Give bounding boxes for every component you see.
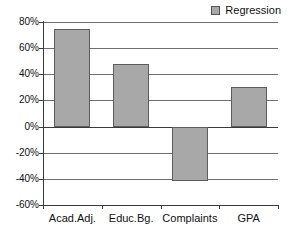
y-axis-tick-label: 60% xyxy=(0,43,39,53)
y-axis-tick-mark xyxy=(39,127,43,128)
y-axis-tick-label: 80% xyxy=(0,17,39,27)
y-axis-tick-label: -20% xyxy=(0,148,39,158)
plot-area xyxy=(43,22,278,205)
legend-entry-regression: Regression xyxy=(211,2,281,18)
y-axis-tick-label: -60% xyxy=(0,200,39,210)
legend-label: Regression xyxy=(225,4,281,16)
gridline xyxy=(43,22,278,23)
y-axis-tick-mark xyxy=(39,22,43,23)
bar-educ-bg xyxy=(113,64,149,127)
x-axis-tick-label: Acad.Adj. xyxy=(43,212,102,225)
y-axis-tick-mark xyxy=(39,179,43,180)
zero-gridline xyxy=(43,127,278,128)
x-axis-tick-labels: Acad.Adj.Educ.Bg.ComplaintsGPA xyxy=(43,212,279,232)
x-axis-tick-mark xyxy=(278,205,279,209)
gridline xyxy=(43,153,278,154)
chart-legend: Regression xyxy=(0,2,289,18)
x-axis-tick-mark xyxy=(219,205,220,209)
y-axis-tick-label: 0% xyxy=(0,122,39,132)
x-axis-tick-mark xyxy=(161,205,162,209)
x-axis-tick-label: Educ.Bg. xyxy=(102,212,161,225)
gridline xyxy=(43,179,278,180)
y-axis-tick-mark xyxy=(39,153,43,154)
y-axis-tick-mark xyxy=(39,100,43,101)
x-axis-tick-mark xyxy=(43,205,44,209)
y-axis-tick-mark xyxy=(39,48,43,49)
x-axis-tick-mark xyxy=(102,205,103,209)
y-axis-tick-label: -40% xyxy=(0,174,39,184)
y-axis-tick-label: 40% xyxy=(0,69,39,79)
y-axis-tick-labels: 80%60%40%20%0%-20%-40%-60% xyxy=(0,0,39,241)
y-axis-tick-label: 20% xyxy=(0,95,39,105)
regression-bar-chart: Regression 80%60%40%20%0%-20%-40%-60% Ac… xyxy=(0,0,289,241)
bar-gpa xyxy=(231,87,267,126)
x-axis-tick-label: GPA xyxy=(219,212,278,225)
y-axis-line xyxy=(43,21,44,206)
bar-complaints xyxy=(172,127,208,182)
y-axis-tick-mark xyxy=(39,74,43,75)
legend-swatch-icon xyxy=(211,6,220,15)
x-axis-tick-label: Complaints xyxy=(161,212,220,225)
bar-acad-adj xyxy=(54,29,90,127)
